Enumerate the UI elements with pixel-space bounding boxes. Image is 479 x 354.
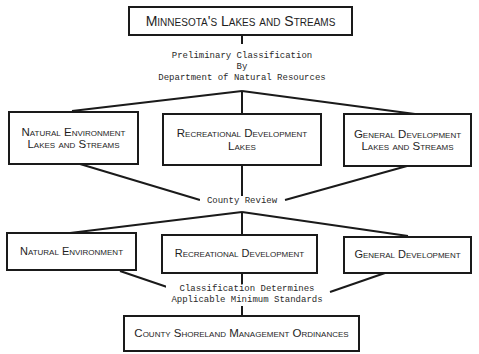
title-box-label: Minnesota's Lakes and Streams	[146, 14, 336, 29]
stage1-label-line2: By	[130, 62, 354, 73]
preliminary-natural-environment-line1: Natural Environment	[22, 126, 126, 138]
preliminary-recreational-development-line1: Recreational Development	[177, 127, 307, 139]
final-general-development-label: General Development	[354, 249, 460, 261]
final-natural-environment-label: Natural Environment	[20, 246, 123, 258]
shoreland-classification-flowchart: Minnesota's Lakes and Streams Preliminar…	[0, 0, 479, 354]
preliminary-general-development-line1: General Development	[354, 128, 461, 140]
final-recreational-development-box: Recreational Development	[161, 234, 318, 274]
result-box: County Shoreland Management Ordinances	[123, 315, 360, 352]
preliminary-recreational-development-box: Recreational Development Lakes	[162, 113, 322, 166]
final-natural-environment-box: Natural Environment	[6, 232, 137, 271]
preliminary-recreational-development-line2: Lakes	[177, 140, 307, 152]
preliminary-general-development-box: General Development Lakes and Streams	[343, 113, 472, 167]
stage1-label-line1: Preliminary Classification	[130, 51, 354, 62]
stage2-label: County Review	[200, 196, 284, 207]
preliminary-natural-environment-box: Natural Environment Lakes and Streams	[8, 111, 139, 165]
stage3-label-line2: Applicable Minimum Standards	[166, 295, 328, 306]
stage1-label-line3: Department of Natural Resources	[130, 73, 354, 84]
stage2-label-text: County Review	[207, 196, 277, 206]
final-general-development-box: General Development	[343, 236, 472, 274]
result-box-label: County Shoreland Management Ordinances	[134, 327, 348, 339]
stage3-label-line1: Classification Determines	[166, 284, 328, 295]
preliminary-natural-environment-line2: Lakes and Streams	[22, 138, 126, 150]
final-recreational-development-label: Recreational Development	[175, 248, 305, 260]
stage3-label: Classification Determines Applicable Min…	[166, 284, 328, 306]
preliminary-general-development-line2: Lakes and Streams	[354, 140, 461, 152]
title-box: Minnesota's Lakes and Streams	[128, 6, 353, 36]
stage1-label: Preliminary Classification By Department…	[130, 51, 354, 84]
